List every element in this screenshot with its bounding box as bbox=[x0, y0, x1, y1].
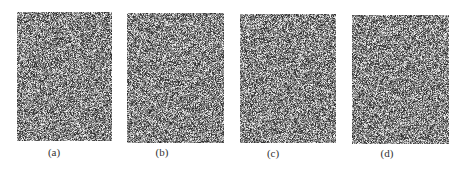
caption-d: (d) bbox=[367, 147, 407, 159]
noise-image-b bbox=[127, 13, 224, 143]
caption-b: (b) bbox=[142, 146, 182, 158]
noise-image-c bbox=[240, 14, 336, 143]
noise-image-d bbox=[352, 15, 449, 144]
noise-image-a bbox=[17, 12, 112, 141]
caption-c: (c) bbox=[253, 147, 293, 159]
caption-a: (a) bbox=[34, 146, 74, 158]
